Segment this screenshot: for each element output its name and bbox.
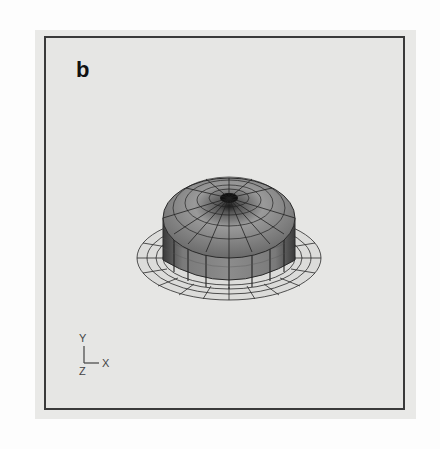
axis-triad [84,346,99,363]
figure-panel: b [35,30,416,419]
x-axis-label: X [102,358,109,369]
wireframe-mesh [46,38,407,412]
y-axis-label: Y [79,333,86,344]
viewport-frame: b [44,36,405,410]
z-axis-label: Z [79,366,86,377]
